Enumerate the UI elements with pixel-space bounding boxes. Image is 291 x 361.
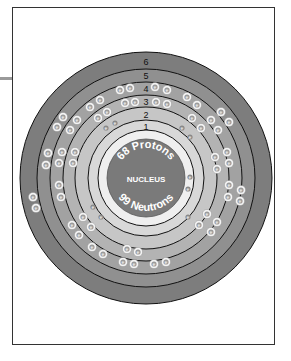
svg-text:e: e: [200, 125, 203, 131]
svg-text:e: e: [189, 134, 192, 140]
svg-text:e: e: [124, 100, 127, 106]
shell-2-label: 2: [143, 110, 148, 120]
svg-text:e: e: [47, 150, 50, 156]
svg-text:e: e: [217, 127, 220, 133]
svg-text:e: e: [99, 97, 102, 103]
svg-text:e: e: [186, 94, 189, 100]
svg-text:e: e: [155, 99, 158, 105]
svg-text:e: e: [220, 109, 223, 115]
shell-3-label: 3: [143, 97, 148, 107]
svg-text:e: e: [228, 119, 231, 125]
svg-text:e: e: [240, 187, 243, 193]
svg-text:e: e: [228, 182, 231, 188]
svg-text:e: e: [166, 101, 169, 107]
svg-text:e: e: [122, 259, 125, 265]
svg-text:e: e: [210, 229, 213, 235]
svg-text:e: e: [196, 102, 199, 108]
svg-text:e: e: [126, 246, 129, 252]
shell-1-label: 1: [143, 122, 148, 132]
svg-text:e: e: [100, 214, 103, 220]
svg-text:e: e: [69, 127, 72, 133]
svg-text:e: e: [90, 224, 93, 230]
svg-text:e: e: [133, 261, 136, 267]
svg-text:e: e: [129, 85, 132, 91]
svg-text:e: e: [32, 194, 35, 200]
svg-text:e: e: [82, 214, 85, 220]
svg-text:e: e: [102, 251, 105, 257]
svg-text:e: e: [92, 204, 95, 210]
svg-text:e: e: [137, 249, 140, 255]
svg-text:e: e: [153, 261, 156, 267]
svg-text:e: e: [72, 160, 75, 166]
svg-text:e: e: [97, 115, 100, 121]
svg-text:e: e: [227, 194, 230, 200]
nucleus-label: NUCLEUS: [127, 175, 166, 184]
svg-text:e: e: [216, 166, 219, 172]
svg-text:e: e: [114, 120, 117, 126]
svg-text:e: e: [106, 109, 109, 115]
svg-text:e: e: [58, 160, 61, 166]
svg-text:e: e: [210, 117, 213, 123]
svg-text:e: e: [189, 174, 192, 180]
svg-text:e: e: [206, 211, 209, 217]
shell-5-label: 5: [143, 71, 148, 81]
svg-text:e: e: [119, 87, 122, 93]
svg-text:e: e: [187, 186, 190, 192]
svg-text:e: e: [226, 149, 229, 155]
svg-text:e: e: [165, 259, 168, 265]
svg-text:e: e: [58, 182, 61, 188]
svg-text:e: e: [89, 104, 92, 110]
svg-text:e: e: [60, 194, 63, 200]
svg-text:e: e: [91, 244, 94, 250]
shell-4-label: 4: [143, 84, 148, 94]
svg-text:e: e: [198, 222, 201, 228]
svg-text:e: e: [187, 214, 190, 220]
svg-text:e: e: [105, 125, 108, 131]
svg-text:e: e: [191, 115, 194, 121]
svg-text:e: e: [154, 84, 157, 90]
svg-text:e: e: [228, 160, 231, 166]
svg-text:e: e: [62, 114, 65, 120]
svg-text:e: e: [78, 232, 81, 238]
svg-text:e: e: [74, 149, 77, 155]
svg-text:e: e: [239, 198, 242, 204]
atom-diagram: 6 5 4 3 2 1 68 Protons NUCLEUS 99 Neutro…: [0, 0, 291, 361]
svg-text:e: e: [61, 149, 64, 155]
svg-text:e: e: [214, 154, 217, 160]
svg-text:e: e: [76, 117, 79, 123]
shell-6-label: 6: [143, 57, 148, 67]
svg-text:e: e: [56, 124, 59, 130]
svg-text:e: e: [45, 162, 48, 168]
svg-text:e: e: [35, 205, 38, 211]
svg-text:e: e: [134, 99, 137, 105]
svg-text:e: e: [71, 222, 74, 228]
svg-text:e: e: [181, 125, 184, 131]
svg-text:e: e: [216, 219, 219, 225]
svg-text:e: e: [166, 87, 169, 93]
